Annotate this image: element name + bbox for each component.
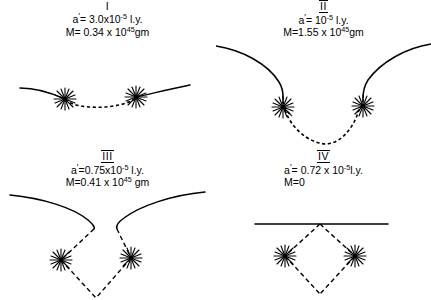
panel-3-star-left [50,249,72,271]
panel-3-left-solid-curve [10,195,94,229]
panel-3-diagram [0,150,215,300]
panel-1-diagram [0,0,215,150]
panel-3-star-right [120,247,142,269]
panel-2-dashed-U [285,110,359,144]
panel-3-right-solid-curve [117,192,205,229]
panel-2-right-solid-curve [363,44,431,98]
panel-2-star-right [352,95,374,117]
panel-3: III a′=0.75x10-5 l.y. M=0.41 x 1045 gm [0,150,215,300]
panel-4: IV a′= 0.72 x 10-5l.y. M=0 [216,150,431,300]
four-panel-figure: I a′= 3.0x10-5 l.y. M= 0.34 x 1045gm [0,0,431,300]
panel-4-star-left [274,245,296,267]
panel-4-star-right [344,245,366,267]
panel-1-right-solid-curve [136,85,190,97]
panel-1-star-right [125,86,147,108]
panel-2-diagram [216,0,431,150]
panel-1-star-left [54,88,76,110]
panel-1-left-solid-curve [20,88,65,99]
panel-2-left-solid-curve [216,46,283,100]
panel-1: I a′= 3.0x10-5 l.y. M= 0.34 x 1045gm [0,0,215,150]
panel-4-diagram [216,150,431,300]
panel-2-star-left [272,96,294,118]
panel-2: II a′= 10-5 l.y. M=1.55 x 1045gm [216,0,431,150]
